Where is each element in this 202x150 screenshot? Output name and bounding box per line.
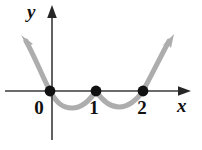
- coordinate-plane-svg: [0, 0, 202, 150]
- graph-figure: y x 0 1 2: [0, 0, 202, 150]
- x-axis-label: x: [177, 96, 187, 115]
- root-point-0: [45, 86, 56, 97]
- x-tick-label-2: 2: [134, 98, 150, 117]
- x-tick-label-0: 0: [31, 98, 47, 117]
- y-axis-arrowhead-icon: [47, 5, 57, 18]
- y-axis-label: y: [27, 2, 35, 21]
- root-point-1: [91, 86, 102, 97]
- y-axis-group: [47, 5, 57, 140]
- x-tick-label-1: 1: [86, 98, 102, 117]
- root-point-2: [138, 86, 149, 97]
